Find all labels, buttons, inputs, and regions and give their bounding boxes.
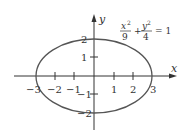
x-tick-label: 1: [111, 84, 117, 95]
svg-text:x: x: [121, 21, 126, 31]
x-tick-label: −3: [26, 84, 41, 95]
y-axis-arrow-icon: [92, 14, 97, 22]
svg-text:2: 2: [127, 19, 131, 26]
x-axis-label: x: [171, 62, 178, 75]
y-axis-label: y: [98, 13, 106, 26]
svg-text:9: 9: [122, 32, 128, 42]
y-tick-label: −1: [77, 89, 92, 100]
svg-text:= 1: = 1: [155, 26, 171, 36]
y-tick-label: −2: [77, 108, 92, 119]
y-tick-label: 2: [81, 34, 87, 45]
x-tick-label: −2: [47, 84, 62, 95]
x-tick-label: 3: [150, 84, 156, 95]
ellipse-plot: −3 −2 −1 1 2 3 2 1 −1 −2 x y x 2 9 + y 2…: [0, 0, 185, 131]
x-tick-label: 2: [130, 84, 136, 95]
equation-label: x 2 9 + y 2 4 = 1: [120, 19, 171, 42]
svg-text:+: +: [134, 26, 142, 36]
y-tick-label: 1: [81, 52, 87, 63]
svg-text:2: 2: [147, 19, 151, 26]
svg-text:4: 4: [143, 32, 149, 42]
